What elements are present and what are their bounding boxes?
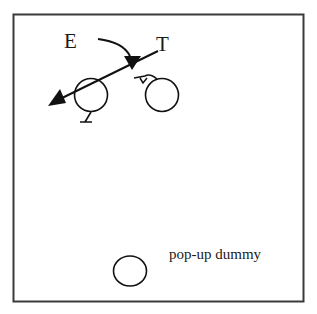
player-e-foot-icon xyxy=(80,112,92,122)
label-t: T xyxy=(156,34,169,55)
label-e: E xyxy=(64,31,77,52)
pass-arrowhead-icon xyxy=(48,89,66,106)
player-t-head-icon xyxy=(134,75,157,83)
run-curve-arrow xyxy=(98,39,130,56)
player-t-circle xyxy=(146,79,179,112)
label-pop-up-dummy: pop-up dummy xyxy=(169,247,261,262)
pop-up-dummy-shape xyxy=(114,256,147,286)
diagram-canvas: E T pop-up dummy xyxy=(0,0,317,314)
run-arrowhead-icon xyxy=(124,56,141,70)
